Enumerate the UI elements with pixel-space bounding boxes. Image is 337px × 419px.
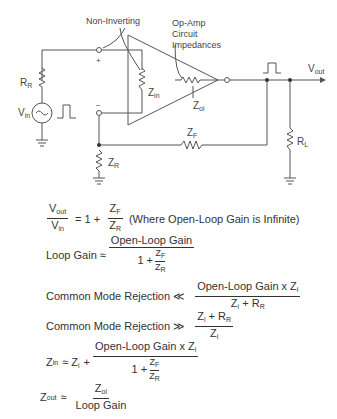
output-terminal bbox=[225, 78, 230, 83]
label-non-inverting: Non-Inverting bbox=[86, 16, 140, 26]
equation-closed-loop-gain: VoutVin = 1 + ZFZR (Where Open-Loop Gain… bbox=[44, 202, 300, 235]
equation-cmr-greater: Common Mode Rejection ≫ Zi + RRZi bbox=[46, 310, 236, 343]
op-amp-circuit-diagram: Non-Inverting Op-Amp Circuit Impedances … bbox=[0, 0, 337, 210]
equation-z-out: Zout ≈ ZoiLoop Gain bbox=[40, 382, 131, 412]
label-z-oi: Zoi bbox=[193, 100, 205, 112]
equation-z-in: Zin ≈ Zi + Open-Loop Gain x Zi1 +ZFZR bbox=[46, 340, 201, 384]
label-z-r: ZR bbox=[108, 157, 119, 169]
non-inverting-terminal bbox=[97, 48, 102, 53]
label-z-in: Zin bbox=[148, 87, 160, 99]
label-op-amp-line2: Circuit bbox=[172, 29, 198, 39]
label-z-f: ZF bbox=[187, 127, 197, 139]
label-r-l: RL bbox=[297, 136, 308, 148]
label-op-amp-line3: Impedances bbox=[172, 40, 222, 50]
label-v-out: Vout bbox=[308, 63, 324, 75]
label-r-r: RR bbox=[20, 77, 32, 89]
inverting-terminal bbox=[97, 111, 102, 116]
label-op-amp-line1: Op-Amp bbox=[172, 18, 206, 28]
equation-loop-gain: Loop Gain ≈ Open-Loop Gain1 +ZFZR bbox=[46, 234, 197, 275]
label-plus: + bbox=[96, 56, 101, 65]
equation-cmr-less: Common Mode Rejection ≪ Open-Loop Gain x… bbox=[46, 280, 303, 313]
label-v-in: Vin bbox=[18, 107, 30, 119]
label-minus: − bbox=[96, 101, 101, 110]
